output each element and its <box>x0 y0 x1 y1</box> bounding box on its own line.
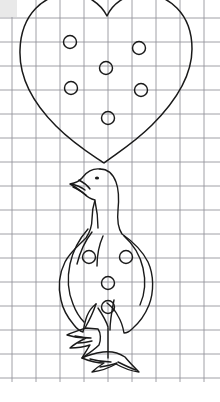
graph-paper-illustration <box>0 0 220 402</box>
scan-corner-shade <box>0 0 17 17</box>
drawing-canvas <box>0 0 220 402</box>
paper-background <box>0 0 220 402</box>
bird-eye-icon <box>95 177 99 180</box>
